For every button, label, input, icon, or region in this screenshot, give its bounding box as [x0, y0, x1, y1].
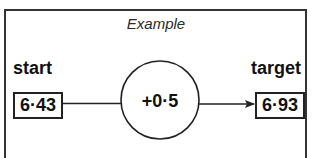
- flow-connectors: [0, 0, 312, 158]
- start-value-box: 6·43: [13, 92, 63, 119]
- operation-value: +0·5: [121, 90, 199, 112]
- target-value-box: 6·93: [255, 92, 305, 119]
